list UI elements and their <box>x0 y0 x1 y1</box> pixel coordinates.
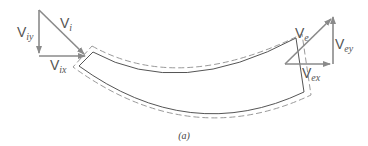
label-vi: Vi <box>60 16 72 33</box>
label-vex: Vex <box>302 66 320 83</box>
label-viy: Viy <box>17 25 34 42</box>
pipe-body-outline <box>79 38 304 114</box>
bent-pipe-velocity-diagram: Vi Viy Vix Ve Vey Vex (a) <box>0 0 368 146</box>
label-ve: Ve <box>295 26 309 43</box>
label-vey: Vey <box>335 37 353 54</box>
label-vix: Vix <box>50 58 67 75</box>
control-volume-outline <box>73 34 311 118</box>
figure-caption: (a) <box>0 130 368 141</box>
